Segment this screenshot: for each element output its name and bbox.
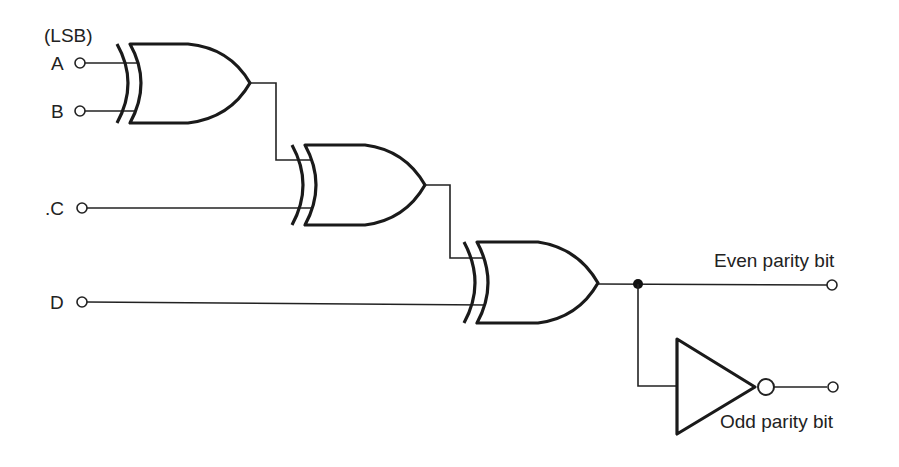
terminal-c <box>77 203 87 213</box>
terminal-even <box>827 280 837 290</box>
wire-inverter-in <box>638 284 677 386</box>
terminal-a <box>75 58 85 68</box>
odd-parity-label: Odd parity bit <box>720 411 834 432</box>
xor-gate-2 <box>292 145 425 225</box>
wire-xor1-out <box>250 83 312 160</box>
wire-even-out <box>598 284 827 285</box>
input-c-label: .C <box>45 198 64 219</box>
input-a-label: A <box>51 53 64 74</box>
lsb-label: (LSB) <box>44 25 93 46</box>
wire-xor2-out <box>425 185 486 258</box>
xor-gate-3 <box>464 242 598 323</box>
terminal-d <box>77 297 87 307</box>
wire-d <box>87 302 486 305</box>
terminal-odd <box>828 382 838 392</box>
input-d-label: D <box>50 292 64 313</box>
inverter-bubble <box>758 379 774 395</box>
terminal-b <box>75 106 85 116</box>
xor-gate-1 <box>117 44 250 123</box>
input-b-label: B <box>51 101 64 122</box>
parity-circuit-diagram: (LSB) A B .C D Even parity bit Odd parit… <box>0 0 899 467</box>
even-parity-label: Even parity bit <box>714 250 835 271</box>
